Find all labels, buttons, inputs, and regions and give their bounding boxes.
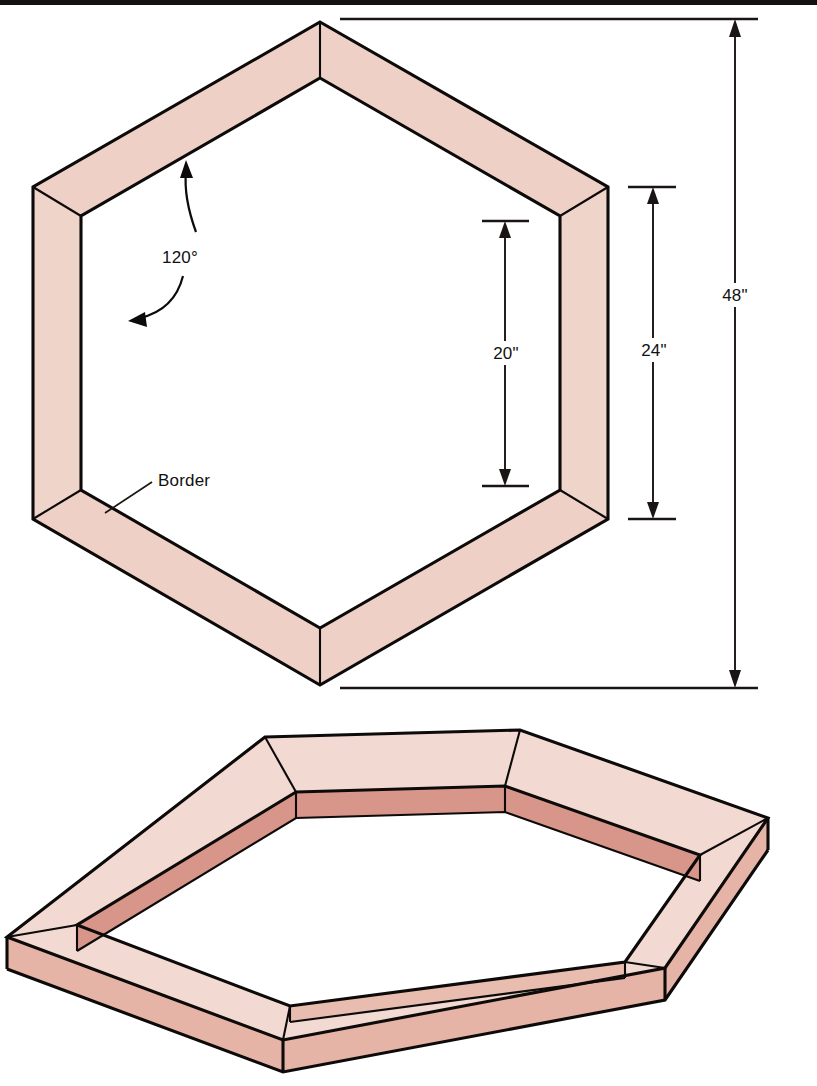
- hexagon-border-figure: 120° Border 20" 24": [0, 0, 817, 1086]
- dim20-label: 20": [493, 344, 519, 363]
- plan-band-right-face: [560, 187, 608, 519]
- dim48-label: 48": [722, 286, 748, 305]
- figure-root: 120° Border 20" 24": [0, 0, 817, 1086]
- scan-edge-strip: [0, 0, 817, 5]
- angle-value-label: 120°: [162, 248, 198, 267]
- dim24-label: 24": [641, 341, 667, 360]
- border-callout-label: Border: [158, 471, 210, 490]
- plan-band-left-face: [33, 187, 81, 519]
